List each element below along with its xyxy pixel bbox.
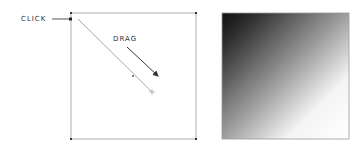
midpoint-dot: [132, 75, 134, 77]
click-pointer: [52, 18, 72, 21]
gradient-result-panel: [222, 13, 349, 139]
drag-label: DRAG: [113, 35, 137, 43]
click-label: CLICK: [21, 15, 46, 23]
drag-path: [78, 19, 155, 95]
diagram-canvas: [0, 0, 364, 145]
